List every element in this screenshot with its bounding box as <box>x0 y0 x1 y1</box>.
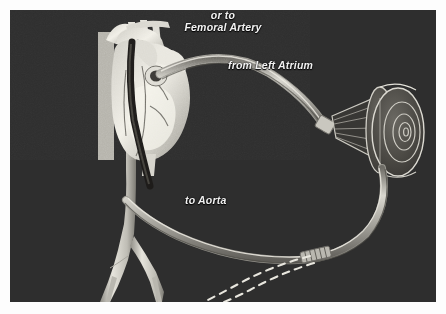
outflow-cannula <box>125 168 387 263</box>
illustration-panel: from Left Atrium to Aorta or to Femoral … <box>10 10 436 302</box>
label-from-left-atrium: from Left Atrium <box>228 60 313 72</box>
figure-container: from Left Atrium to Aorta or to Femoral … <box>0 0 446 314</box>
blood-pump-device <box>332 84 424 177</box>
label-to-aorta: to Aorta <box>185 195 226 207</box>
grain-texture <box>10 10 310 160</box>
